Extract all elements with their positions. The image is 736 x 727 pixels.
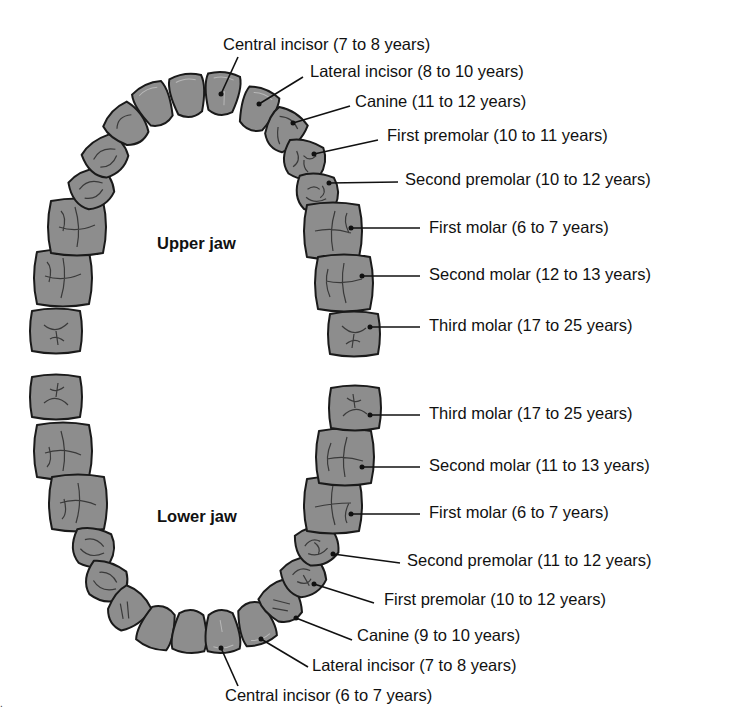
- upper-jaw-title: Upper jaw: [157, 235, 236, 252]
- lower-jaw-title: Lower jaw: [157, 508, 237, 525]
- label-upper-second-premolar: Second premolar (10 to 12 years): [405, 171, 651, 188]
- label-upper-canine: Canine (11 to 12 years): [355, 93, 526, 110]
- tooth-upper-right-first-molar: [304, 203, 362, 260]
- label-upper-lateral-incisor: Lateral incisor (8 to 10 years): [310, 63, 524, 80]
- tooth-upper-left-third-molar: [30, 309, 82, 354]
- tooth-lower-right-second-molar: [316, 429, 374, 486]
- label-lower-canine: Canine (9 to 10 years): [357, 627, 520, 644]
- label-lower-lateral-incisor: Lateral incisor (7 to 8 years): [312, 657, 517, 674]
- label-upper-central-incisor: Central incisor (7 to 8 years): [223, 36, 430, 53]
- tooth-upper-left-second-molar: [34, 250, 92, 307]
- label-lower-second-premolar: Second premolar (11 to 12 years): [407, 552, 652, 569]
- label-lower-third-molar: Third molar (17 to 25 years): [429, 405, 633, 422]
- tooth-lower-left-first-molar: [49, 475, 107, 532]
- tooth-lower-left-central-incisor: [171, 609, 209, 655]
- label-lower-first-premolar: First premolar (10 to 12 years): [384, 591, 606, 608]
- tooth-upper-left-central-incisor: [168, 72, 208, 119]
- label-upper-third-molar: Third molar (17 to 25 years): [429, 317, 633, 334]
- label-upper-second-molar: Second molar (12 to 13 years): [429, 266, 651, 283]
- label-upper-first-premolar: First premolar (10 to 11 years): [387, 127, 608, 144]
- tooth-upper-right-third-molar: [328, 312, 380, 357]
- tooth-lower-left-third-molar: [30, 375, 82, 420]
- label-lower-second-molar: Second molar (11 to 13 years): [429, 457, 650, 474]
- tooth-lower-right-third-molar: [329, 386, 381, 431]
- tooth-upper-right-second-molar: [315, 255, 373, 312]
- label-lower-first-molar: First molar (6 to 7 years): [429, 504, 609, 521]
- label-upper-first-molar: First molar (6 to 7 years): [429, 219, 609, 236]
- label-lower-central-incisor: Central incisor (6 to 7 years): [225, 687, 432, 704]
- stray-mark: .: [0, 698, 3, 709]
- tooth-lower-left-second-molar: [34, 423, 92, 480]
